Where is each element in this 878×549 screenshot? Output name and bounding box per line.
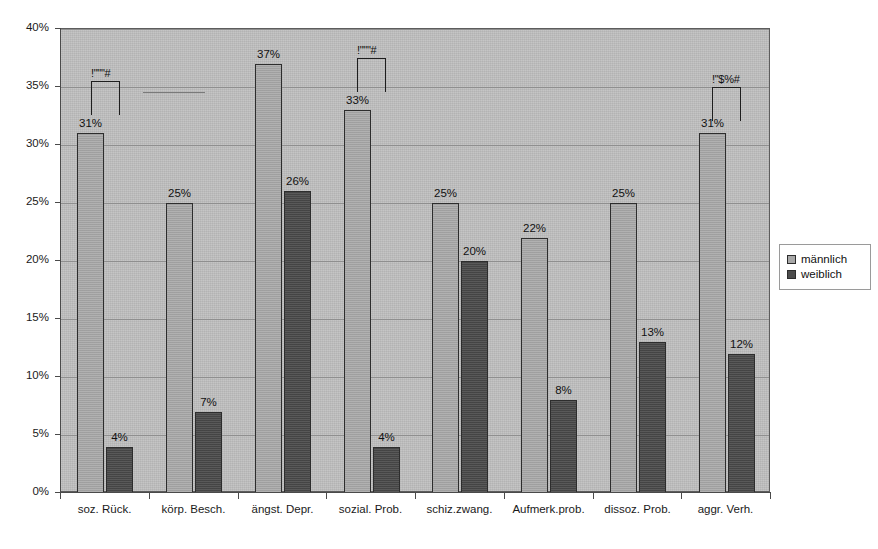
bar-value-label: 25% bbox=[160, 188, 199, 200]
bar-value-label: 7% bbox=[189, 397, 228, 409]
bracket-top-line bbox=[91, 81, 120, 82]
significance-bracket bbox=[712, 87, 741, 121]
x-tick-mark bbox=[593, 493, 594, 499]
y-tick-mark bbox=[55, 28, 60, 29]
bar-value-label: 20% bbox=[455, 246, 494, 258]
x-axis-category-label: Aufmerk.prob. bbox=[504, 503, 593, 516]
bar-value-label: 12% bbox=[722, 339, 761, 351]
x-axis-category-label: aggr. Verh. bbox=[681, 503, 770, 516]
legend-item-weiblich: weiblich bbox=[787, 269, 864, 281]
gridline bbox=[61, 29, 769, 30]
bracket-right-leg bbox=[385, 58, 386, 92]
bar-value-label: 4% bbox=[100, 432, 139, 444]
legend: männlich weiblich bbox=[779, 244, 871, 290]
legend-swatch-icon-maennlich bbox=[787, 255, 796, 264]
bar-maennlich bbox=[699, 133, 726, 493]
bar-value-label: 31% bbox=[71, 118, 110, 130]
bar-value-label: 8% bbox=[544, 385, 583, 397]
x-tick-mark bbox=[238, 493, 239, 499]
bar-maennlich bbox=[610, 203, 637, 493]
y-tick-mark bbox=[55, 434, 60, 435]
significance-label: !"$%# bbox=[712, 74, 739, 85]
x-tick-mark bbox=[415, 493, 416, 499]
y-tick-label: 5% bbox=[3, 428, 49, 440]
y-tick-label: 40% bbox=[3, 22, 49, 34]
bracket-right-leg bbox=[119, 81, 120, 115]
bracket-top-line bbox=[712, 87, 741, 88]
bar-value-label: 4% bbox=[367, 432, 406, 444]
bar-maennlich bbox=[521, 238, 548, 493]
plot-area: 31%25%37%33%25%22%25%31%4%7%26%4%20%8%13… bbox=[60, 28, 770, 492]
bar-maennlich bbox=[166, 203, 193, 493]
y-tick-mark bbox=[55, 202, 60, 203]
y-tick-mark bbox=[55, 260, 60, 261]
y-axis-line bbox=[60, 28, 61, 493]
bar-weiblich bbox=[550, 400, 577, 493]
bar-value-label: 25% bbox=[426, 188, 465, 200]
y-tick-mark bbox=[55, 318, 60, 319]
bar-weiblich bbox=[728, 354, 755, 493]
x-axis-category-label: ängst. Depr. bbox=[238, 503, 327, 516]
bar-chart: 31%25%37%33%25%22%25%31%4%7%26%4%20%8%13… bbox=[0, 0, 878, 549]
x-tick-mark bbox=[326, 493, 327, 499]
bar-weiblich bbox=[106, 447, 133, 493]
gridline bbox=[61, 87, 769, 88]
bar-value-label: 22% bbox=[515, 223, 554, 235]
bracket-left-leg bbox=[357, 58, 358, 92]
legend-swatch-icon-weiblich bbox=[787, 270, 796, 279]
bar-weiblich bbox=[373, 447, 400, 493]
x-tick-mark bbox=[60, 493, 61, 499]
y-tick-label: 25% bbox=[3, 196, 49, 208]
bar-maennlich bbox=[255, 64, 282, 493]
x-axis-category-label: dissoz. Prob. bbox=[593, 503, 682, 516]
gridline bbox=[61, 145, 769, 146]
x-tick-mark bbox=[770, 493, 771, 499]
bar-value-label: 13% bbox=[633, 327, 672, 339]
bar-value-label: 26% bbox=[278, 176, 317, 188]
x-axis-category-label: schiz.zwang. bbox=[415, 503, 504, 516]
y-tick-label: 30% bbox=[3, 138, 49, 150]
bar-value-label: 33% bbox=[338, 95, 377, 107]
bracket-left-leg bbox=[712, 87, 713, 121]
y-tick-label: 15% bbox=[3, 312, 49, 324]
x-tick-mark bbox=[149, 493, 150, 499]
legend-label-weiblich: weiblich bbox=[801, 269, 842, 281]
bracket-right-leg bbox=[740, 87, 741, 121]
bracket-left-leg bbox=[91, 81, 92, 115]
bar-value-label: 25% bbox=[604, 188, 643, 200]
bar-value-label: 37% bbox=[249, 49, 288, 61]
y-tick-mark bbox=[55, 144, 60, 145]
significance-label: !"""# bbox=[357, 45, 376, 56]
bar-weiblich bbox=[639, 342, 666, 493]
y-tick-label: 20% bbox=[3, 254, 49, 266]
x-axis-category-label: soz. Rück. bbox=[60, 503, 149, 516]
legend-item-maennlich: männlich bbox=[787, 254, 864, 266]
x-tick-mark bbox=[681, 493, 682, 499]
bar-weiblich bbox=[195, 412, 222, 493]
y-tick-label: 35% bbox=[3, 80, 49, 92]
y-tick-mark bbox=[55, 376, 60, 377]
y-tick-label: 10% bbox=[3, 370, 49, 382]
scan-artifact-line bbox=[143, 92, 205, 93]
significance-bracket bbox=[91, 81, 120, 115]
x-axis-category-label: körp. Besch. bbox=[149, 503, 238, 516]
y-tick-mark bbox=[55, 86, 60, 87]
bar-weiblich bbox=[461, 261, 488, 493]
significance-bracket bbox=[357, 58, 386, 92]
y-tick-label: 0% bbox=[3, 486, 49, 498]
legend-label-maennlich: männlich bbox=[801, 254, 847, 266]
bar-weiblich bbox=[284, 191, 311, 493]
x-axis-category-label: sozial. Prob. bbox=[326, 503, 415, 516]
significance-label: !"""# bbox=[91, 68, 110, 79]
bracket-top-line bbox=[357, 58, 386, 59]
x-tick-mark bbox=[504, 493, 505, 499]
